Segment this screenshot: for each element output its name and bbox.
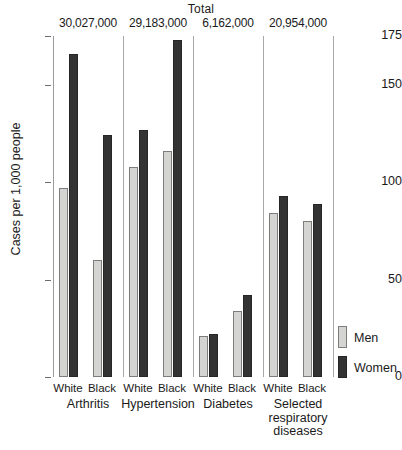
group-total-value: 30,027,000 [48,16,128,30]
y-tick-mark [45,182,51,183]
group-total-value: 20,954,000 [258,16,338,30]
group-separator [333,36,334,377]
group-separator [193,36,194,377]
chart-legend: MenWomen [338,326,402,386]
bar-men [163,151,172,377]
y-tick-mark [45,85,51,86]
legend-label: Women [354,361,397,375]
bar-men [269,213,278,377]
bar-women [313,204,322,377]
group-separator [263,36,264,377]
group-total-value: 6,162,000 [188,16,268,30]
group-total-value: 29,183,000 [118,16,198,30]
y-axis-title: Cases per 1,000 people [9,104,23,274]
bar-men [233,311,242,377]
y-tick-label: 150 [358,77,402,91]
bar-men [199,336,208,377]
legend-swatch-men [338,326,347,348]
legend-label: Men [354,331,378,345]
y-tick-label: 50 [358,272,402,286]
bar-women [139,130,148,377]
legend-item: Women [338,356,402,386]
plot-area [53,36,333,377]
bar-women [243,295,252,377]
bar-women [209,334,218,377]
x-axis-group-label: Selected respiratory diseases [250,398,346,439]
y-tick-label: 100 [358,174,402,188]
bar-women [103,135,112,377]
legend-item: Men [338,326,402,356]
y-tick-mark [45,280,51,281]
bar-men [303,221,312,377]
bar-women [279,196,288,377]
bar-women [173,40,182,377]
bar-men [93,260,102,377]
group-separator [123,36,124,377]
group-totals-row: 30,027,00029,183,0006,162,00020,954,000 [53,16,333,34]
bar-men [59,188,68,377]
y-tick-mark [45,377,51,378]
y-tick-mark [45,36,51,37]
x-axis-race-label: Black [290,382,334,394]
bar-women [69,54,78,377]
bar-men [129,167,138,377]
bar-chart: Total 30,027,00029,183,0006,162,00020,95… [0,0,402,450]
legend-swatch-women [338,356,347,378]
y-tick-label: 175 [358,28,402,42]
total-header-label: Total [0,2,402,16]
